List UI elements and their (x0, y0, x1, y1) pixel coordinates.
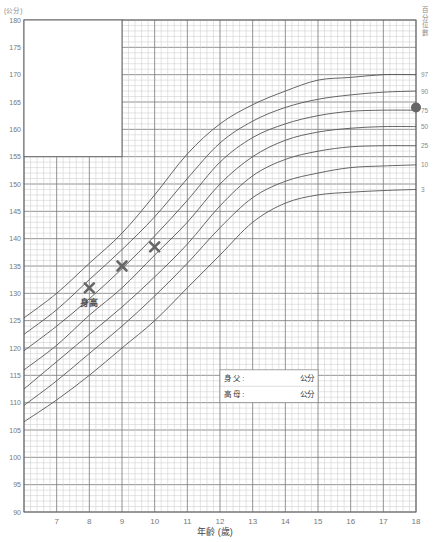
y-tick-label: 120 (9, 345, 21, 352)
y-tick-label: 150 (9, 181, 21, 188)
blank-area (24, 20, 122, 157)
percentile-label: 50 (421, 123, 429, 130)
x-axis-title: 年齡 (歲) (197, 526, 233, 537)
x-tick-label: 7 (54, 517, 59, 526)
x-tick-label: 9 (120, 517, 125, 526)
y-tick-label: 115 (10, 372, 21, 379)
x-tick-label: 16 (346, 517, 355, 526)
y-tick-label: 180 (9, 17, 21, 24)
x-tick-label: 17 (379, 517, 388, 526)
y-tick-label: 110 (10, 399, 21, 406)
y-tick-label: 105 (9, 427, 21, 434)
y-tick-label: 175 (9, 44, 21, 51)
y-tick-label: 130 (9, 290, 21, 297)
y-tick-label: 170 (9, 71, 21, 78)
y-tick-label: 140 (9, 235, 21, 242)
y-tick-label: 165 (9, 99, 21, 106)
height-annotation: 身高 (80, 297, 98, 308)
y-unit-label: (公分) (4, 6, 22, 15)
y-tick-label: 90 (13, 509, 21, 516)
percentile-header: 位 (422, 20, 429, 28)
x-tick-label: 12 (216, 517, 225, 526)
target-height-dot (411, 102, 421, 112)
y-tick-label: 135 (9, 263, 21, 270)
father-height-label: 身 父 : (224, 373, 244, 383)
x-tick-label: 14 (281, 517, 290, 526)
percentile-label: 75 (421, 107, 429, 114)
percentile-label: 3 (421, 186, 425, 193)
x-tick-label: 18 (412, 517, 421, 526)
x-tick-label: 11 (183, 517, 192, 526)
percentile-label: 97 (421, 71, 429, 78)
y-tick-label: 100 (9, 454, 21, 461)
percentile-header: 數 (422, 28, 429, 37)
y-tick-label: 160 (9, 126, 21, 133)
y-tick-label: 95 (13, 481, 21, 488)
percentile-label: 25 (421, 142, 429, 149)
percentile-label: 90 (421, 88, 429, 95)
growth-chart: 9095100105110115120125130135140145150155… (0, 0, 435, 542)
y-tick-label: 155 (9, 153, 21, 160)
y-tick-label: 145 (9, 208, 21, 215)
height-unit: 公分 (300, 390, 315, 399)
x-tick-label: 13 (248, 517, 257, 526)
mother-height-label: 高 母 : (224, 389, 244, 399)
x-tick-label: 10 (150, 517, 159, 526)
x-tick-label: 15 (314, 517, 323, 526)
percentile-label: 10 (421, 161, 429, 168)
y-tick-label: 125 (9, 317, 21, 324)
height-unit: 公分 (300, 374, 315, 383)
x-tick-label: 8 (87, 517, 92, 526)
